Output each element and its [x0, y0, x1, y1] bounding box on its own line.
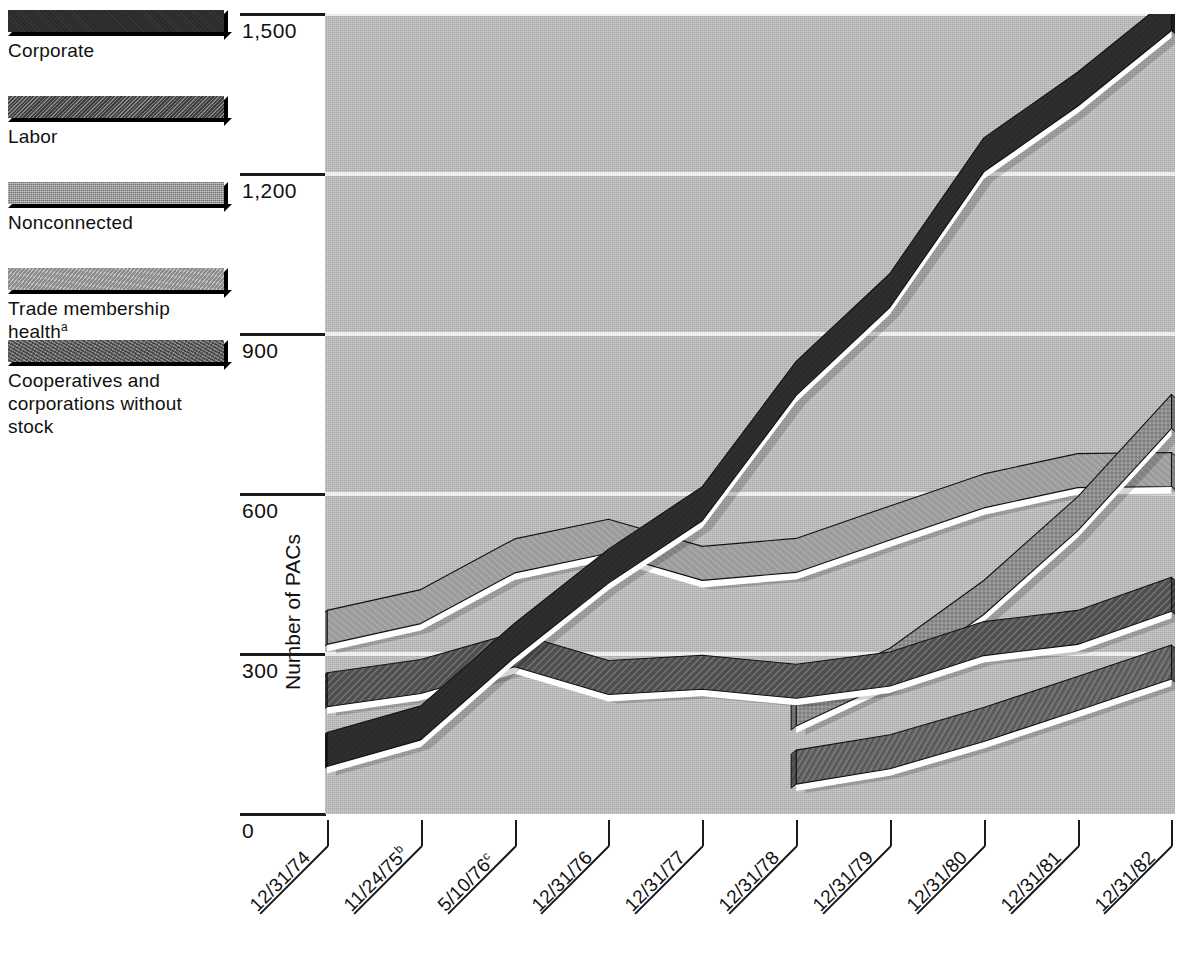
x-axis-tick-label: 12/31/77	[621, 846, 691, 916]
y-axis-tick	[240, 653, 326, 656]
x-axis-tick-label-text: 11/24/75	[339, 847, 407, 915]
y-axis-tick-label: 1,200	[242, 180, 297, 201]
y-axis-tick-label: 0	[242, 820, 254, 841]
chart-legend: Corporate Labor Nonconnected Trade membe…	[0, 0, 232, 470]
x-axis-tick	[984, 820, 986, 846]
y-axis-tick	[240, 813, 326, 816]
legend-item-cooperatives[interactable]: Cooperatives and corporations without st…	[8, 340, 232, 438]
x-axis-tick-label-text: 12/31/79	[809, 846, 878, 915]
legend-item-labor[interactable]: Labor	[8, 96, 232, 148]
legend-label-trade-membership-health: Trade membership healtha	[8, 297, 232, 343]
y-axis-tick-label: 900	[242, 340, 279, 361]
y-axis-title: Number of PACs	[281, 512, 305, 712]
x-axis-tick	[1171, 820, 1173, 846]
legend-label-nonconnected: Nonconnected	[8, 211, 232, 234]
legend-swatch-corporate	[8, 10, 224, 32]
y-axis-tick	[240, 333, 326, 336]
y-axis-tick-label: 1,500	[242, 20, 297, 41]
legend-swatch-labor	[8, 96, 224, 118]
legend-item-trade-membership-health[interactable]: Trade membership healtha	[8, 268, 232, 343]
chart-container: Number of PACs 03006009001,2001,500	[232, 0, 1177, 963]
x-axis-tick-label: 12/31/81	[996, 846, 1066, 916]
data-ribbons	[325, 14, 1175, 814]
x-axis-tick-label: 12/31/74	[246, 846, 316, 916]
x-axis-tick	[1078, 820, 1080, 846]
y-axis-tick	[240, 493, 326, 496]
legend-swatch-coop	[8, 340, 224, 362]
plot-area	[325, 14, 1175, 814]
legend-swatch-nonconnected	[8, 182, 224, 204]
y-axis-tick	[240, 13, 326, 16]
x-axis-tick-label: 12/31/82	[1090, 846, 1160, 916]
x-axis-tick	[421, 820, 423, 846]
x-axis-tick	[515, 820, 517, 846]
legend-label-cooperatives: Cooperatives and corporations without st…	[8, 369, 232, 438]
legend-label-labor: Labor	[8, 125, 232, 148]
x-axis-tick-label: 12/31/80	[902, 846, 972, 916]
x-axis-tick-label: 12/31/79	[809, 846, 879, 916]
legend-swatch-trade	[8, 268, 224, 290]
x-axis-tick-label: 12/31/78	[715, 846, 785, 916]
x-axis-tick-label: 12/31/76	[527, 846, 597, 916]
x-axis-tick-label-text: 12/31/76	[527, 846, 596, 915]
y-axis-tick-label: 600	[242, 500, 279, 521]
x-axis-tick	[608, 820, 610, 846]
legend-item-corporate[interactable]: Corporate	[8, 10, 232, 62]
legend-label-corporate: Corporate	[8, 39, 232, 62]
y-axis-tick-label: 300	[242, 660, 279, 681]
x-axis-tick-label-text: 12/31/78	[715, 846, 784, 915]
x-axis-tick-label: 5/10/76c	[433, 850, 499, 916]
x-axis-tick	[796, 820, 798, 846]
x-axis-tick	[890, 820, 892, 846]
legend-footnote-marker-a: a	[61, 320, 68, 334]
x-axis-tick-label-text: 12/31/82	[1090, 846, 1159, 915]
legend-item-nonconnected[interactable]: Nonconnected	[8, 182, 232, 234]
x-axis-tick-label-text: 12/31/74	[246, 846, 315, 915]
x-axis-tick	[327, 820, 329, 846]
x-axis-tick-label-text: 12/31/77	[621, 846, 690, 915]
legend-label-trade-text: Trade membership health	[8, 298, 170, 342]
x-axis-tick-label-text: 12/31/80	[902, 846, 971, 915]
x-axis-tick-label: 11/24/75b	[339, 842, 412, 915]
x-axis-tick-label-text: 12/31/81	[996, 846, 1065, 915]
x-axis-tick	[702, 820, 704, 846]
y-axis-tick	[240, 173, 326, 176]
x-axis-tick-label-text: 5/10/76	[433, 854, 494, 915]
